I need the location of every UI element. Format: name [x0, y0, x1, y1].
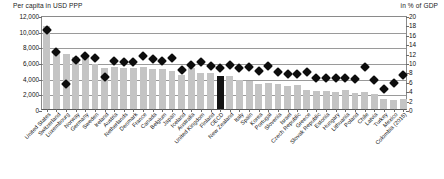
left-tick-label: 2,000 — [23, 92, 39, 98]
bar — [400, 99, 407, 109]
chart-column — [389, 17, 399, 109]
chart-column — [321, 17, 331, 109]
diamond-marker — [360, 62, 370, 72]
bar — [265, 83, 272, 109]
right-tick-label: 12 — [409, 51, 416, 57]
diamond-marker — [177, 65, 187, 75]
x-axis-labels: United StatesSwitzerlandLuxembourgNorway… — [41, 112, 407, 179]
diamond-marker — [379, 84, 389, 94]
bar-series — [42, 17, 406, 109]
chart-column — [341, 17, 351, 109]
chart-column — [283, 17, 293, 109]
bar — [188, 68, 195, 109]
bar — [120, 68, 127, 109]
bar — [207, 73, 214, 109]
right-tick-label: 20 — [409, 14, 416, 20]
diamond-marker — [225, 60, 235, 70]
chart-column — [350, 17, 360, 109]
diamond-marker — [254, 66, 264, 76]
diamond-marker — [167, 53, 177, 63]
bar — [130, 68, 137, 110]
chart-column — [398, 17, 408, 109]
bar — [169, 71, 176, 109]
chart-column — [90, 17, 100, 109]
bar — [275, 84, 282, 109]
bar — [53, 52, 60, 109]
chart-column — [177, 17, 187, 109]
chart-column — [379, 17, 389, 109]
bar — [43, 26, 50, 109]
left-tick-label: 6,000 — [23, 61, 39, 67]
chart-column — [235, 17, 245, 109]
diamond-marker — [206, 61, 216, 71]
left-tick-label: 4,000 — [23, 76, 39, 82]
diamond-marker — [321, 73, 331, 83]
chart-column — [186, 17, 196, 109]
right-tick-label: 14 — [409, 42, 416, 48]
right-tick-label: 18 — [409, 23, 416, 29]
diamond-marker — [138, 51, 148, 61]
bar — [92, 64, 99, 109]
bar — [380, 99, 387, 109]
diamond-marker — [196, 57, 206, 67]
diamond-marker — [157, 56, 167, 66]
chart-column — [109, 17, 119, 109]
chart-column — [302, 17, 312, 109]
diamond-marker — [302, 67, 312, 77]
chart-column — [119, 17, 129, 109]
right-tick-label: 16 — [409, 33, 416, 39]
right-axis-caption: in % of GDP — [401, 2, 438, 9]
right-tick-label: 4 — [409, 89, 413, 95]
diamond-marker — [292, 69, 302, 79]
diamond-marker — [234, 63, 244, 73]
bar — [149, 69, 156, 109]
bar — [390, 100, 397, 109]
bar — [361, 92, 368, 109]
diamond-marker — [129, 57, 139, 67]
bar — [246, 81, 253, 109]
chart-column — [81, 17, 91, 109]
bar — [140, 67, 147, 109]
bar — [111, 67, 118, 109]
chart-column — [312, 17, 322, 109]
chart-column — [196, 17, 206, 109]
plot-area: 02,0004,0006,0008,00010,00012,000 024681… — [41, 16, 407, 110]
right-tick-label: 0 — [409, 108, 413, 114]
bar — [303, 90, 310, 109]
diamond-marker — [90, 53, 100, 63]
chart-column — [273, 17, 283, 109]
bar — [323, 91, 330, 109]
diamond-marker — [398, 70, 408, 80]
right-tick-label: 10 — [409, 61, 416, 67]
left-tick-label: 12,000 — [19, 14, 39, 20]
chart-column — [138, 17, 148, 109]
diamond-marker — [312, 73, 322, 83]
chart-column — [331, 17, 341, 109]
chart-column — [52, 17, 62, 109]
right-tick-label: 2 — [409, 98, 413, 104]
bar — [217, 76, 224, 109]
diamond-marker — [369, 75, 379, 85]
bar — [284, 86, 291, 109]
chart-column — [369, 17, 379, 109]
right-tick-label: 8 — [409, 70, 413, 76]
left-axis-caption: Per capita in USD PPP — [13, 2, 83, 9]
chart-column — [148, 17, 158, 109]
left-tick-label: 8,000 — [23, 45, 39, 51]
chart-column — [225, 17, 235, 109]
chart-column — [206, 17, 216, 109]
bar — [313, 91, 320, 109]
chart-column — [264, 17, 274, 109]
bar — [352, 93, 359, 109]
chart-column — [71, 17, 81, 109]
bar — [342, 90, 349, 109]
diamond-marker — [263, 61, 273, 71]
chart-column — [292, 17, 302, 109]
diamond-marker — [273, 67, 283, 77]
bar — [332, 92, 339, 109]
diamond-marker — [215, 63, 225, 73]
diamond-marker — [389, 78, 399, 88]
chart-column — [61, 17, 71, 109]
chart-column — [42, 17, 52, 109]
chart-column — [158, 17, 168, 109]
